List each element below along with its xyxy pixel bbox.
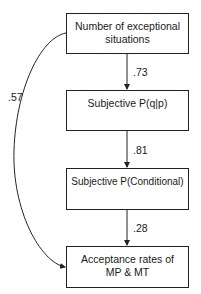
node-subjective-pqp: Subjective P(q|p): [66, 90, 189, 131]
edge-label-n1-n4: .57: [8, 91, 23, 103]
node-label-line1: Acceptance rates of: [67, 253, 188, 266]
node-label-line1: Number of exceptional: [67, 20, 188, 33]
node-subjective-pconditional: Subjective P(Conditional): [66, 168, 189, 210]
edge-label-n2-n3: .81: [133, 144, 148, 156]
node-acceptance-rates: Acceptance rates of MP & MT: [66, 246, 189, 288]
node-label-line1: Subjective P(Conditional): [67, 175, 188, 188]
node-label-line2: situations: [67, 33, 188, 46]
node-label-line2: MP & MT: [67, 266, 188, 279]
edge-label-n1-n2: .73: [133, 66, 148, 78]
edge-n1-n4-curve: [14, 33, 66, 267]
edge-label-n3-n4: .28: [133, 222, 148, 234]
node-label-line1: Subjective P(q|p): [67, 97, 188, 110]
node-exceptional-situations: Number of exceptional situations: [66, 13, 189, 54]
